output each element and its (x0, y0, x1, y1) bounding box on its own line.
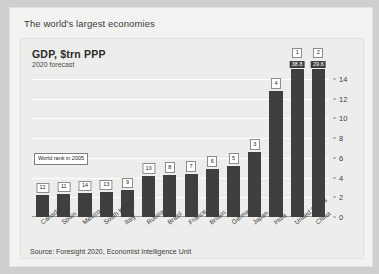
rank-badge: 14 (78, 181, 91, 192)
y-tick-label: 8 (339, 134, 343, 143)
bar-value-label: 29.6 (311, 61, 326, 69)
rank-badge: 11 (57, 182, 70, 193)
rank-badge: 1 (292, 48, 302, 59)
bar[interactable] (163, 175, 176, 217)
card-headline: The world's largest economies (24, 18, 155, 29)
rank-badge: 12 (36, 183, 49, 194)
source-note: Source: Foresight 2020, Economist Intell… (30, 248, 191, 255)
bar[interactable] (291, 69, 304, 217)
bar[interactable] (227, 166, 240, 217)
bar-slot: 4 (269, 69, 282, 217)
legend-world-rank: World rank in 2005 (34, 153, 88, 165)
y-tick-mark (333, 197, 336, 198)
rank-badge: 7 (186, 161, 196, 172)
rank-badge: 3 (250, 139, 260, 150)
bar-slot: 10 (142, 69, 155, 217)
chart-subtitle: 2020 forecast (32, 61, 74, 68)
y-tick-label: 12 (339, 94, 347, 103)
bar[interactable] (269, 91, 282, 217)
bar-slot: 29.62 (312, 69, 325, 217)
rank-badge: 9 (122, 178, 132, 189)
rank-badge: 4 (271, 78, 281, 89)
bar-slot: 11 (57, 69, 70, 217)
y-tick-mark (333, 217, 336, 218)
rank-badge: 6 (207, 156, 217, 167)
y-tick-mark (333, 98, 336, 99)
y-tick-label: 2 (339, 193, 343, 202)
rank-badge: 2 (313, 48, 323, 59)
bar-slot: 8 (163, 69, 176, 217)
y-tick-mark (333, 177, 336, 178)
y-tick-label: 10 (339, 114, 347, 123)
rank-badge: 5 (228, 153, 238, 164)
rank-badge: 8 (165, 162, 175, 173)
bar-slot: 5 (227, 69, 240, 217)
screenshot-root: The world's largest economies GDP, $trn … (0, 0, 379, 274)
bar[interactable] (185, 174, 198, 217)
y-axis-labels: 02468101214 (333, 69, 357, 217)
rank-badge: 10 (142, 163, 155, 174)
y-tick-mark (333, 157, 336, 158)
bar-value-label: 38.8 (290, 61, 305, 69)
bar-slot: 3 (248, 69, 261, 217)
plot-area: 1211141391087653438.8129.62 World rank i… (32, 69, 329, 217)
chart-card: The world's largest economies GDP, $trn … (10, 8, 372, 266)
y-tick-mark (333, 78, 336, 79)
y-tick-mark (333, 118, 336, 119)
bar-slot: 13 (100, 69, 113, 217)
bar[interactable] (312, 69, 325, 217)
bar[interactable] (206, 169, 219, 217)
chart-title: GDP, $trn PPP (32, 48, 106, 60)
bar-slot: 9 (121, 69, 134, 217)
rank-badge: 13 (100, 180, 113, 191)
bar-slot: 7 (185, 69, 198, 217)
chart-panel: GDP, $trn PPP 2020 forecast 121114139108… (20, 38, 364, 259)
bar-slot: 6 (206, 69, 219, 217)
bar[interactable] (142, 176, 155, 217)
y-tick-label: 14 (339, 74, 347, 83)
y-tick-mark (333, 138, 336, 139)
bar-slot: 14 (78, 69, 91, 217)
y-tick-label: 6 (339, 153, 343, 162)
bar-series: 1211141391087653438.8129.62 (32, 69, 329, 217)
y-tick-label: 0 (339, 213, 343, 222)
bar-slot: 12 (36, 69, 49, 217)
bar-slot: 38.81 (291, 69, 304, 217)
y-tick-label: 4 (339, 173, 343, 182)
